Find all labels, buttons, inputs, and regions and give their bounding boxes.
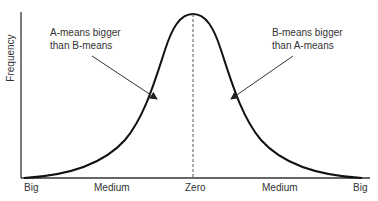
x-tick-label-big-right: Big <box>353 182 367 193</box>
x-tick-label-medium-right: Medium <box>262 182 298 193</box>
annotation-a-line2: than B-means <box>50 40 112 51</box>
annotation-b-arrow <box>231 56 293 99</box>
x-tick-label-medium-left: Medium <box>94 182 130 193</box>
x-tick-label-zero: Zero <box>185 182 206 193</box>
annotation-a-arrow <box>92 56 157 99</box>
x-tick-label-big-left: Big <box>24 182 38 193</box>
annotation-a-line1: A-means bigger <box>50 27 121 38</box>
annotation-b-line2: than A-means <box>272 40 334 51</box>
y-axis-label: Frequency <box>5 34 16 81</box>
annotation-b-line1: B-means bigger <box>272 27 343 38</box>
sampling-distribution-diagram: Frequency A-means bigger than B-means B-… <box>0 0 378 201</box>
